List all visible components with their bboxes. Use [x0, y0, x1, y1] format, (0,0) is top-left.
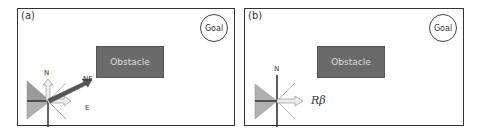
east-label: E — [85, 104, 89, 112]
north-label: N — [44, 69, 49, 77]
north-label: N — [274, 65, 279, 73]
heading-label: Rβ — [311, 94, 326, 107]
northeast-label: NE — [83, 75, 93, 83]
compass-rose-icon — [18, 9, 236, 127]
panel-b: (b) Goal Obstacle N Rβ — [244, 8, 464, 126]
panel-a: (a) Goal Obstacle N NE E — [17, 8, 235, 126]
